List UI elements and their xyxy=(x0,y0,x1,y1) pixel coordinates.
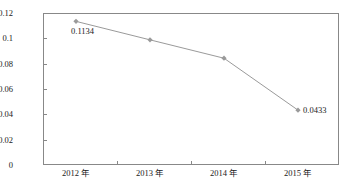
series-line xyxy=(76,21,298,110)
data-point-label: 0.1134 xyxy=(71,27,94,36)
data-point-marker xyxy=(147,37,152,42)
data-series-layer xyxy=(0,0,359,191)
data-point-label: 0.0433 xyxy=(303,106,326,115)
line-chart: 0.120.10.080.060.040.020 2012 年2013 年201… xyxy=(0,0,359,191)
data-point-marker xyxy=(73,19,78,24)
